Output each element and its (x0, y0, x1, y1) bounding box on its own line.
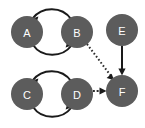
edge-e-to-f-arrowhead (118, 69, 125, 76)
edge-b-to-f (87, 44, 114, 80)
edge-d-to-c (33, 71, 72, 84)
edge-c-to-d-path (33, 107, 72, 117)
edge-d-to-f (93, 87, 107, 94)
edge-c-to-d (33, 103, 72, 116)
node-e-circle[interactable] (106, 14, 138, 46)
graph-diagram: A B C D E F (0, 0, 145, 128)
node-d-circle[interactable] (61, 78, 93, 110)
node-c-circle[interactable] (11, 78, 43, 110)
graph-canvas: A B C D E F (0, 0, 145, 128)
edge-b-to-a-path (33, 9, 72, 19)
edge-a-to-b (33, 41, 72, 54)
node-e[interactable]: E (106, 14, 138, 46)
edge-e-to-f (118, 46, 125, 76)
node-f-circle[interactable] (106, 75, 138, 107)
edge-b-to-a (33, 9, 72, 22)
edge-b-to-f-path (87, 44, 111, 76)
node-b[interactable]: B (61, 16, 93, 48)
node-c[interactable]: C (11, 78, 43, 110)
node-d[interactable]: D (61, 78, 93, 110)
edge-d-to-f-arrowhead (100, 87, 107, 94)
node-f[interactable]: F (106, 75, 138, 107)
node-a-circle[interactable] (11, 16, 43, 48)
node-b-circle[interactable] (61, 16, 93, 48)
edge-d-to-c-path (33, 71, 72, 81)
edge-a-to-b-path (33, 45, 72, 55)
node-a[interactable]: A (11, 16, 43, 48)
